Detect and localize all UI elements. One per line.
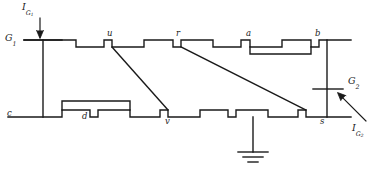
current-label-ig1: IG1 — [22, 2, 34, 14]
node-label-c: c — [7, 109, 12, 118]
node-label-a: a — [246, 29, 251, 38]
top-rail-inner-stub — [250, 47, 311, 54]
node-label-u: u — [107, 29, 112, 38]
node-label-r: r — [176, 29, 180, 38]
terminal-label-g2: G2 — [348, 76, 360, 88]
terminal-label-g1: G1 — [5, 33, 17, 45]
node-label-d: d — [82, 112, 87, 121]
current-label-ig2: IG2 — [352, 123, 364, 135]
top-rail-conductor — [24, 40, 351, 47]
figure-canvas: G1 G2 IG1 IG2 u r a b c d v s — [0, 0, 376, 172]
bottom-rail-conductor — [8, 110, 351, 117]
diagonal-r-to-s — [181, 47, 306, 110]
current-arrow-ig1-head — [37, 31, 44, 39]
bottom-rail-inner-loop — [62, 101, 130, 110]
node-label-s: s — [320, 117, 324, 126]
circuit-schematic — [0, 0, 376, 172]
node-label-b: b — [315, 29, 320, 38]
node-label-v: v — [165, 117, 170, 126]
